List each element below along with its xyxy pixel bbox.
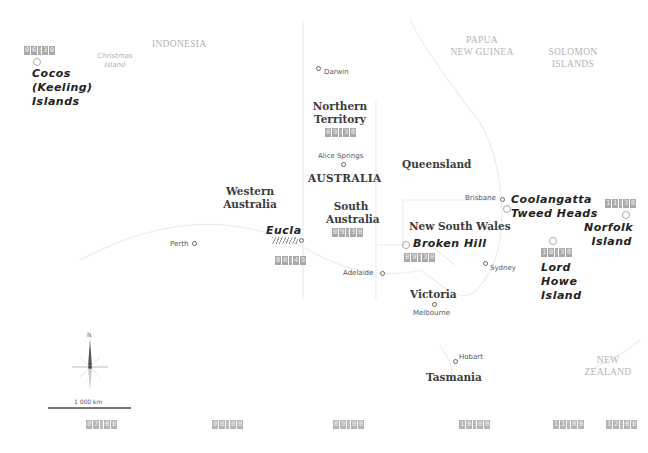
place-eucla: Eucla — [266, 224, 302, 238]
state-tas: Tasmania — [426, 371, 482, 384]
city-brisbane: Brisbane — [465, 194, 496, 202]
city-melbourne: Melbourne — [413, 309, 450, 317]
adelaide-dot — [380, 271, 385, 276]
norfolk-line1: Norfolk — [584, 221, 632, 235]
bottom-time-1100: 11:00 — [553, 420, 584, 429]
perth-dot — [192, 241, 197, 246]
broken-hill-clock-icon — [402, 241, 410, 249]
nt-line2: Territory — [308, 113, 372, 126]
nt-line1: Northern — [308, 100, 372, 113]
norfolk-line2: Island — [584, 235, 632, 249]
state-vic: Victoria — [410, 288, 457, 301]
place-lord-howe: Lord Howe Island — [541, 261, 582, 303]
scale-bar — [48, 407, 131, 409]
bottom-time-1000: 10:00 — [459, 420, 490, 429]
eucla-time-badge: 08:45 — [275, 256, 306, 265]
nt-time-badge: 09:30 — [325, 128, 356, 137]
sa-time-badge: 09:30 — [332, 228, 363, 237]
city-perth: Perth — [170, 240, 188, 248]
place-coolangatta: Coolangatta Tweed Heads — [511, 193, 598, 221]
eucla-dot — [299, 238, 304, 243]
cocos-line1: Cocos — [32, 67, 93, 81]
coolangatta-line2: Tweed Heads — [511, 207, 598, 221]
bottom-time-0800: 08:00 — [212, 420, 243, 429]
lord-howe-time-badge: 10:30 — [541, 248, 572, 257]
city-sydney: Sydney — [490, 264, 516, 272]
city-alice-springs: Alice Springs — [318, 152, 363, 160]
broken-hill-time-badge: 09:30 — [404, 253, 435, 262]
png-line2: NEW GUINEA — [444, 46, 520, 58]
city-hobart: Hobart — [459, 353, 483, 361]
city-darwin: Darwin — [324, 68, 349, 76]
sa-line2: Australia — [326, 213, 376, 226]
place-broken-hill: Broken Hill — [413, 237, 486, 251]
cocos-clock-icon — [33, 58, 41, 66]
state-qld: Queensland — [402, 158, 471, 171]
bottom-time-1200: 12:00 — [606, 420, 637, 429]
state-nsw: New South Wales — [409, 220, 511, 233]
norfolk-clock-icon — [622, 211, 630, 219]
compass-north-label: N — [87, 331, 92, 338]
brisbane-dot — [500, 197, 505, 202]
hobart-dot — [453, 359, 458, 364]
lord-howe-line2: Howe — [541, 275, 582, 289]
bottom-time-0700: 07:00 — [86, 420, 117, 429]
time-zone-map: INDONESIA PAPUA NEW GUINEA SOLOMON ISLAN… — [0, 0, 648, 453]
coolangatta-clock-icon — [503, 205, 511, 213]
christmas-line1: Christmas — [92, 52, 138, 61]
darwin-dot — [316, 66, 321, 71]
nz-line2: ZEALAND — [578, 366, 638, 378]
cocos-line3: Islands — [32, 95, 93, 109]
state-sa: South Australia — [326, 200, 376, 226]
compass-rose-icon — [70, 339, 110, 391]
nz-line1: NEW — [578, 354, 638, 366]
state-wa: Western Australia — [222, 185, 278, 211]
place-cocos: Cocos (Keeling) Islands — [32, 67, 93, 109]
lord-howe-line3: Island — [541, 289, 582, 303]
bottom-time-0900: 09:00 — [333, 420, 364, 429]
place-norfolk: Norfolk Island — [584, 221, 632, 249]
wa-line1: Western — [222, 185, 278, 198]
lord-howe-line1: Lord — [541, 261, 582, 275]
wa-line2: Australia — [222, 198, 278, 211]
state-nt: Northern Territory — [308, 100, 372, 126]
lord-howe-clock-icon — [549, 237, 557, 245]
coolangatta-line1: Coolangatta — [511, 193, 598, 207]
sydney-dot — [483, 261, 488, 266]
country-png: PAPUA NEW GUINEA — [444, 34, 520, 58]
country-indonesia: INDONESIA — [152, 38, 206, 50]
cocos-time-badge: 06:30 — [24, 46, 55, 55]
sa-line1: South — [326, 200, 376, 213]
scale-bar-label: 1 000 km — [74, 398, 102, 405]
solomon-line1: SOLOMON — [538, 46, 608, 58]
country-solomon: SOLOMON ISLANDS — [538, 46, 608, 70]
alice-springs-dot — [341, 162, 346, 167]
eucla-zone-hatch — [272, 237, 298, 244]
city-adelaide: Adelaide — [343, 269, 373, 277]
christmas-line2: Island — [92, 61, 138, 70]
melbourne-dot — [432, 302, 437, 307]
cocos-line2: (Keeling) — [32, 81, 93, 95]
norfolk-time-badge: 11:30 — [605, 199, 636, 208]
place-christmas-island: Christmas Island — [92, 52, 138, 70]
solomon-line2: ISLANDS — [538, 58, 608, 70]
country-australia: AUSTRALIA — [308, 172, 382, 184]
country-nz: NEW ZEALAND — [578, 354, 638, 378]
png-line1: PAPUA — [444, 34, 520, 46]
